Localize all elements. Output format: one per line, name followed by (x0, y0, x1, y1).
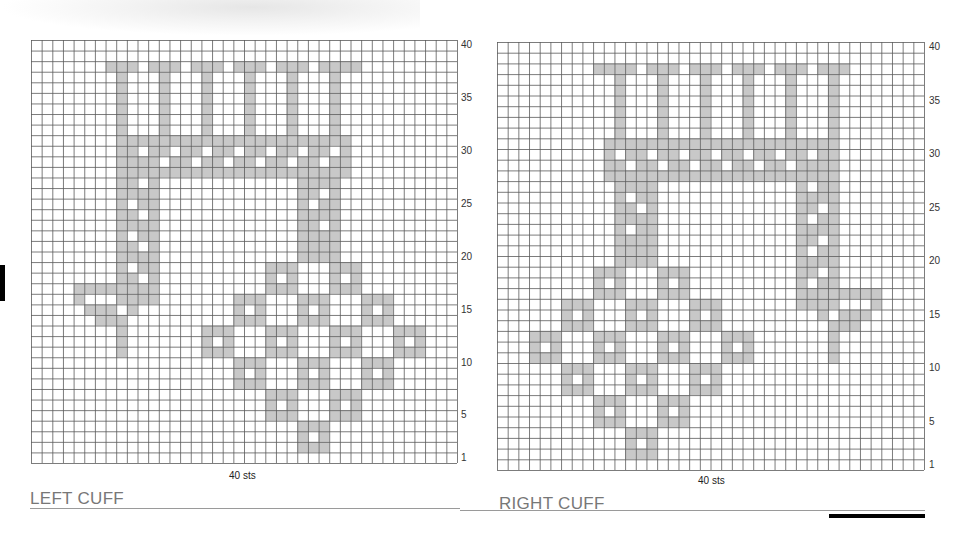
row-number-label: 35 (929, 96, 940, 106)
row-number-label: 35 (461, 93, 472, 103)
left-title-rule (30, 508, 460, 509)
right-width-label: 40 sts (698, 475, 725, 486)
background-texture (0, 0, 420, 36)
right-cuff-title: RIGHT CUFF (499, 494, 605, 514)
row-number-label: 25 (929, 203, 940, 213)
right-cuff-chart (497, 42, 924, 470)
row-number-label: 40 (929, 42, 940, 52)
row-number-label: 20 (461, 252, 472, 262)
row-number-label: 10 (929, 363, 940, 373)
row-number-label: 20 (929, 256, 940, 266)
left-width-label: 40 sts (229, 470, 256, 481)
row-number-label: 1 (461, 453, 467, 463)
row-number-label: 15 (461, 305, 472, 315)
row-number-label: 5 (929, 417, 935, 427)
row-number-label: 25 (461, 199, 472, 209)
footer-black-bar (829, 514, 925, 518)
row-number-label: 5 (461, 410, 467, 420)
row-number-label: 30 (461, 146, 472, 156)
page-edge-marker (0, 265, 5, 301)
right-cuff-grid (497, 42, 925, 471)
left-cuff-grid (31, 40, 458, 464)
row-number-label: 1 (929, 460, 935, 470)
right-title-rule (460, 510, 925, 511)
row-number-label: 10 (461, 358, 472, 368)
row-number-label: 30 (929, 149, 940, 159)
row-number-label: 40 (461, 40, 472, 50)
left-cuff-title: LEFT CUFF (30, 489, 124, 509)
row-number-label: 15 (929, 310, 940, 320)
left-cuff-chart (31, 40, 457, 463)
